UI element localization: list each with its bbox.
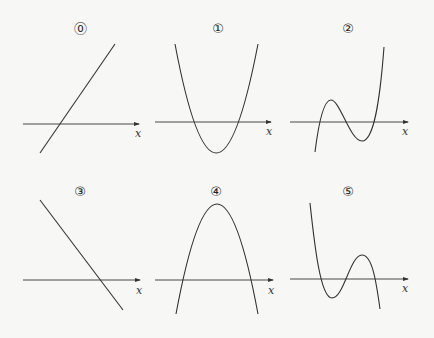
panel-2: ② x [290, 21, 409, 152]
graphs-diagram: ⓪ x ① x ② x ③ x ④ x ⑤ x [0, 0, 434, 338]
x-axis-label: x [402, 125, 409, 138]
graph-curve [40, 44, 115, 153]
x-axis-label: x [136, 284, 143, 297]
x-axis-label: x [266, 125, 273, 138]
panel-marker: ⑤ [342, 184, 354, 199]
panel-5: ⑤ x [290, 184, 409, 309]
panel-marker: ⓪ [74, 21, 87, 36]
graph-curve [315, 47, 384, 152]
graph-curve [175, 44, 258, 153]
panel-marker: ① [212, 21, 224, 36]
panel-1: ① x [155, 21, 273, 153]
panel-3: ③ x [23, 184, 143, 310]
graph-curve [310, 203, 380, 309]
graph-curve [40, 200, 123, 310]
x-axis-label: x [402, 282, 409, 295]
x-axis-label: x [135, 127, 142, 140]
panel-marker: ④ [210, 184, 222, 199]
panel-marker: ② [342, 21, 354, 36]
x-axis-label: x [268, 284, 275, 297]
panel-4: ④ x [155, 184, 275, 314]
panel-marker: ③ [74, 184, 86, 199]
panel-0: ⓪ x [23, 21, 142, 153]
graph-curve [176, 204, 258, 314]
